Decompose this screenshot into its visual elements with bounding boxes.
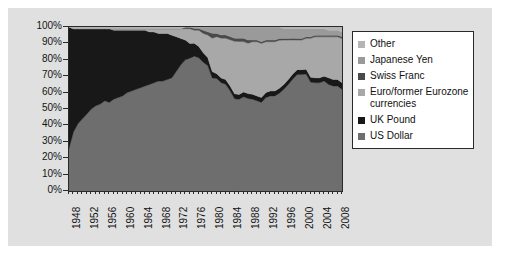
x-axis-tick-mark [149, 191, 150, 194]
legend-swatch-icon [358, 89, 365, 96]
x-axis-tick-mark [117, 191, 118, 194]
x-axis-tick-mark [122, 191, 123, 194]
x-axis-tick-mark [283, 191, 284, 194]
legend-item-label: UK Pound [370, 114, 416, 126]
x-axis-tick-label: 1992 [269, 207, 279, 229]
x-axis-tick-mark [328, 191, 329, 194]
x-axis-tick-mark [198, 191, 199, 194]
legend-swatch-icon [358, 117, 365, 124]
chart-figure: 100%90%80%70%60%50%40%30%20%10%0% 194819… [0, 0, 510, 254]
x-axis-tick-mark [269, 191, 270, 194]
x-axis-tick-mark [126, 191, 127, 194]
chart-legend: OtherJapanese YenSwiss FrancEuro/former … [352, 31, 474, 149]
x-axis-tick-mark [265, 191, 266, 194]
x-axis: 1948195219561960196419681972197619801984… [68, 193, 343, 253]
y-axis-tick-mark [63, 124, 68, 125]
y-axis-tick-label: 100% [16, 21, 62, 31]
x-axis-tick-mark [162, 191, 163, 194]
x-axis-tick-mark [323, 191, 324, 194]
x-axis-tick-label: 2000 [305, 207, 315, 229]
x-axis-tick-mark [86, 191, 87, 194]
x-axis-tick-mark [81, 191, 82, 194]
x-axis-tick-label: 1956 [108, 207, 118, 229]
x-axis-tick-mark [247, 191, 248, 194]
x-axis-tick-mark [332, 191, 333, 194]
y-axis-tick-label: 40% [16, 119, 62, 129]
x-axis-tick-mark [229, 191, 230, 194]
legend-item-label: US Dollar [370, 130, 413, 142]
y-axis-tick-mark [63, 92, 68, 93]
legend-item-label: Japanese Yen [370, 54, 433, 66]
x-axis-tick-label: 1952 [90, 207, 100, 229]
x-axis-tick-mark [310, 191, 311, 194]
x-axis-tick-mark [274, 191, 275, 194]
x-axis-tick-mark [153, 191, 154, 194]
x-axis-tick-label: 2008 [341, 207, 351, 229]
x-axis-tick-mark [234, 191, 235, 194]
y-axis-tick-mark [63, 42, 68, 43]
y-axis-tick-label: 10% [16, 169, 62, 179]
y-axis-tick-label: 0% [16, 185, 62, 195]
x-axis-tick-mark [166, 191, 167, 194]
x-axis-tick-mark [238, 191, 239, 194]
x-axis-tick-mark [189, 191, 190, 194]
x-axis-tick-mark [256, 191, 257, 194]
x-axis-tick-mark [278, 191, 279, 194]
x-axis-tick-mark [140, 191, 141, 194]
legend-swatch-icon [358, 73, 365, 80]
legend-item[interactable]: US Dollar [358, 130, 469, 142]
y-axis-tick-label: 20% [16, 152, 62, 162]
y-axis-tick-label: 60% [16, 87, 62, 97]
x-axis-tick-mark [220, 191, 221, 194]
legend-item[interactable]: Japanese Yen [358, 54, 469, 66]
x-axis-tick-mark [175, 191, 176, 194]
legend-item-label: Swiss Franc [370, 70, 424, 82]
x-axis-tick-mark [131, 191, 132, 194]
x-axis-tick-mark [184, 191, 185, 194]
legend-swatch-icon [358, 41, 365, 48]
x-axis-tick-mark [305, 191, 306, 194]
y-axis-tick-label: 90% [16, 37, 62, 47]
x-axis-tick-mark [243, 191, 244, 194]
y-axis-tick-mark [63, 26, 68, 27]
legend-item[interactable]: Swiss Franc [358, 70, 469, 82]
x-axis-tick-label: 1984 [233, 207, 243, 229]
x-axis-tick-mark [180, 191, 181, 194]
x-axis-tick-label: 1980 [215, 207, 225, 229]
x-axis-tick-label: 1960 [126, 207, 136, 229]
x-axis-tick-mark [68, 191, 69, 194]
x-axis-tick-mark [104, 191, 105, 194]
x-axis-tick-mark [135, 191, 136, 194]
x-axis-tick-mark [319, 191, 320, 194]
x-axis-tick-mark [225, 191, 226, 194]
x-axis-tick-mark [207, 191, 208, 194]
x-axis-tick-mark [287, 191, 288, 194]
x-axis-tick-label: 1948 [72, 207, 82, 229]
y-axis-tick-label: 70% [16, 70, 62, 80]
x-axis-tick-mark [202, 191, 203, 194]
y-axis: 100%90%80%70%60%50%40%30%20%10%0% [14, 0, 62, 254]
x-axis-tick-mark [72, 191, 73, 194]
x-axis-tick-label: 1976 [197, 207, 207, 229]
legend-item[interactable]: Euro/former Eurozone currencies [358, 86, 469, 110]
plot-area [68, 26, 343, 192]
y-axis-tick-label: 30% [16, 136, 62, 146]
x-axis-tick-mark [301, 191, 302, 194]
x-axis-tick-mark [251, 191, 252, 194]
legend-item[interactable]: Other [358, 38, 469, 50]
x-axis-tick-label: 1996 [287, 207, 297, 229]
y-axis-tick-mark [63, 157, 68, 158]
x-axis-tick-label: 2004 [323, 207, 333, 229]
y-axis-tick-mark [63, 141, 68, 142]
y-axis-tick-label: 50% [16, 103, 62, 113]
x-axis-tick-label: 1972 [179, 207, 189, 229]
legend-item[interactable]: UK Pound [358, 114, 469, 126]
y-axis-tick-mark [63, 174, 68, 175]
stacked-area-plot [69, 27, 342, 191]
legend-item-label: Euro/former Eurozone currencies [370, 86, 469, 110]
x-axis-tick-mark [211, 191, 212, 194]
x-axis-tick-mark [260, 191, 261, 194]
x-axis-tick-mark [99, 191, 100, 194]
y-axis-tick-mark [63, 59, 68, 60]
legend-item-label: Other [370, 38, 395, 50]
